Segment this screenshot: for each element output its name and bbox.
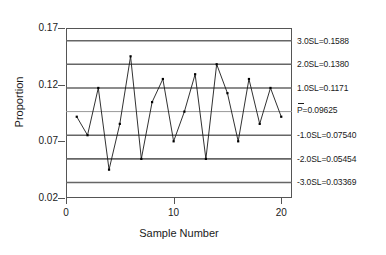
limit-label-sl-minus-1: -1.0SL=0.07540	[297, 130, 356, 140]
x-tick-label: 20	[266, 207, 296, 218]
limit-label-sl-plus-2: 2.0SL=0.1380	[297, 59, 349, 69]
data-point-marker	[259, 123, 261, 125]
data-point-marker	[76, 116, 78, 118]
data-point-marker	[140, 158, 142, 160]
data-point-marker	[280, 116, 282, 118]
p-bar-overline	[298, 103, 304, 104]
y-tick-mark	[58, 28, 65, 29]
data-point-marker	[194, 73, 196, 75]
x-tick-label: 10	[159, 207, 189, 218]
limit-label-sl-plus-3: 3.0SL=0.1588	[297, 36, 349, 46]
data-point-marker	[119, 123, 121, 125]
y-tick-mark	[58, 198, 65, 199]
x-tick-label: 0	[51, 207, 81, 218]
x-tick-mark	[281, 198, 282, 204]
y-tick-label: 0.17	[28, 22, 58, 33]
data-point-marker	[86, 134, 88, 136]
limit-label-center-line: P=0.09625	[297, 103, 337, 115]
data-point-marker	[183, 111, 185, 113]
p-control-chart: Proportion Sample Number 0.020.070.120.1…	[0, 0, 386, 255]
y-tick-label: 0.12	[28, 79, 58, 90]
data-point-marker	[216, 63, 218, 65]
data-point-marker	[226, 92, 228, 94]
limit-label-sl-minus-3: -3.0SL=0.03369	[297, 177, 356, 187]
data-point-marker	[97, 87, 99, 89]
x-tick-mark	[66, 198, 67, 204]
limit-label-sl-minus-2: -2.0SL=0.05454	[297, 154, 356, 164]
x-tick-mark	[174, 198, 175, 204]
data-point-marker	[173, 140, 175, 142]
plot-canvas	[66, 28, 292, 198]
y-tick-label: 0.07	[28, 135, 58, 146]
limit-label-text: P=0.09625	[297, 105, 337, 115]
series-line-proportion	[77, 56, 281, 169]
data-point-marker	[162, 78, 164, 80]
data-point-marker	[205, 158, 207, 160]
limit-label-sl-plus-1: 1.0SL=0.1171	[297, 83, 348, 93]
data-point-marker	[108, 169, 110, 171]
y-tick-mark	[58, 85, 65, 86]
data-point-marker	[129, 55, 131, 57]
y-axis-title: Proportion	[13, 52, 25, 152]
data-point-marker	[269, 87, 271, 89]
y-tick-mark	[58, 141, 65, 142]
data-point-marker	[151, 101, 153, 103]
y-tick-label: 0.02	[28, 192, 58, 203]
data-point-marker	[248, 78, 250, 80]
x-axis-title: Sample Number	[66, 227, 292, 239]
data-point-marker	[237, 140, 239, 142]
